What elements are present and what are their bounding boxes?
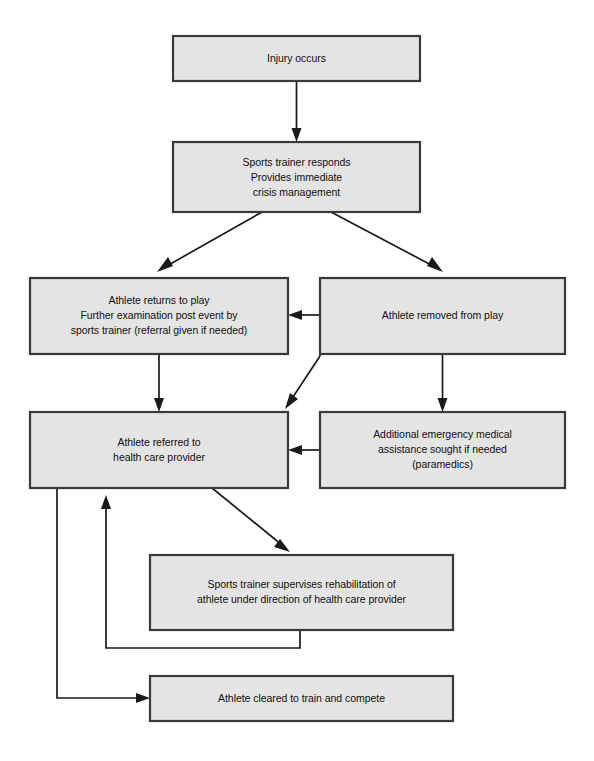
flowchart-svg: Injury occurs Sports trainer responds Pr…: [0, 0, 594, 761]
node-athlete-referred-to-provider[interactable]: Athlete referred to health care provider: [30, 412, 288, 488]
node-athlete-returns-to-play-line-1: Athlete returns to play: [109, 294, 211, 306]
node-additional-emergency-medical-line-1: Additional emergency medical: [373, 428, 512, 440]
node-athlete-cleared-to-train-line-1: Athlete cleared to train and compete: [218, 692, 385, 704]
node-sports-trainer-responds-line-2: Provides immediate: [251, 171, 343, 183]
edge-returns-to-referred: [154, 354, 164, 412]
node-athlete-referred-to-provider-line-1: Athlete referred to: [117, 436, 200, 448]
edge-removed-to-returns: [288, 290, 320, 356]
node-sports-trainer-responds-line-1: Sports trainer responds: [243, 156, 351, 168]
edge-removed-to-referred: [285, 356, 320, 409]
node-additional-emergency-medical[interactable]: Additional emergency medical assistance …: [320, 412, 565, 488]
node-injury-occurs[interactable]: Injury occurs: [173, 36, 420, 81]
node-athlete-removed-from-play-line-1: Athlete removed from play: [382, 309, 504, 321]
node-athlete-referred-to-provider-line-2: health care provider: [113, 451, 205, 463]
node-sports-trainer-responds-line-3: crisis management: [253, 186, 340, 198]
edge-referred-to-cleared: [57, 488, 150, 703]
flowchart-canvas: Injury occurs Sports trainer responds Pr…: [0, 0, 594, 761]
node-additional-emergency-medical-line-3: (paramedics): [412, 458, 473, 470]
node-sports-trainer-responds[interactable]: Sports trainer responds Provides immedia…: [173, 142, 420, 212]
edge-removed-to-emergency: [438, 354, 448, 412]
node-athlete-returns-to-play[interactable]: Athlete returns to play Further examinat…: [30, 278, 288, 354]
node-sports-trainer-supervises-rehabilitation-line-2: athlete under direction of health care p…: [197, 593, 407, 605]
edge-referred-to-rehab: [212, 488, 290, 552]
edge-emergency-to-referred: [288, 445, 320, 455]
node-sports-trainer-supervises-rehabilitation-line-1: Sports trainer supervises rehabilitation…: [207, 578, 395, 590]
node-additional-emergency-medical-line-2: assistance sought if needed: [378, 443, 507, 455]
edge-injury-to-trainer: [292, 81, 302, 142]
node-sports-trainer-supervises-rehabilitation[interactable]: Sports trainer supervises rehabilitation…: [150, 555, 453, 630]
node-athlete-returns-to-play-line-2: Further examination post event by: [80, 309, 238, 321]
edge-trainer-to-removed: [331, 212, 443, 272]
node-athlete-returns-to-play-line-3: sports trainer (referral given if needed…: [71, 324, 248, 336]
node-athlete-cleared-to-train[interactable]: Athlete cleared to train and compete: [150, 676, 453, 721]
node-injury-occurs-line-1: Injury occurs: [267, 52, 326, 64]
edge-trainer-to-returns: [157, 212, 262, 272]
node-athlete-removed-from-play[interactable]: Athlete removed from play: [320, 278, 565, 354]
